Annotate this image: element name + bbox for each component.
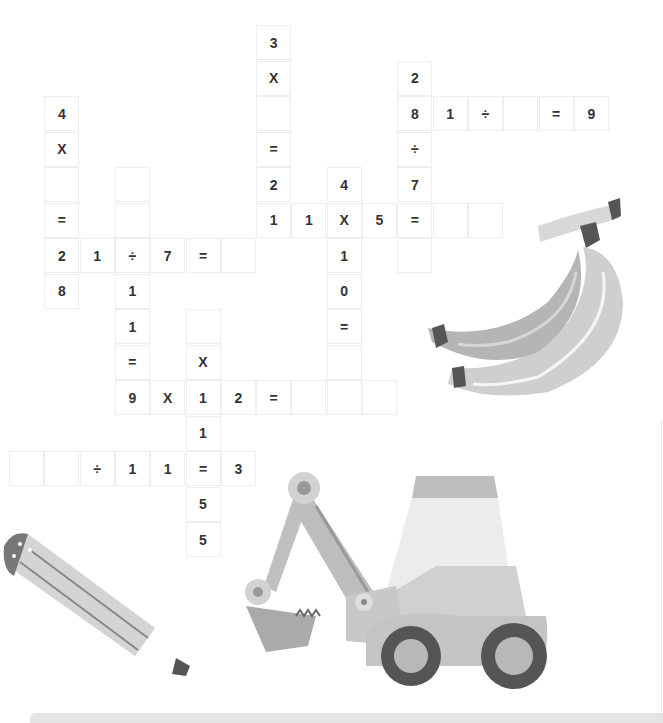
clue-cell: 5 xyxy=(362,203,397,238)
clue-cell: 1 xyxy=(115,309,150,344)
answer-cell[interactable] xyxy=(44,451,79,486)
answer-cell[interactable] xyxy=(221,238,256,273)
answer-cell[interactable] xyxy=(503,96,538,131)
clue-cell: 5 xyxy=(186,487,221,522)
banana-icon xyxy=(418,192,628,402)
clue-cell: 1 xyxy=(291,203,326,238)
clue-cell: ÷ xyxy=(80,451,115,486)
answer-cell[interactable] xyxy=(256,96,291,131)
clue-cell: 1 xyxy=(433,96,468,131)
clue-cell: = xyxy=(539,96,574,131)
clue-cell: 2 xyxy=(397,61,432,96)
clue-cell: = xyxy=(256,380,291,415)
clue-cell: 4 xyxy=(327,167,362,202)
clue-cell: 1 xyxy=(186,380,221,415)
excavator-icon xyxy=(236,466,556,706)
clue-cell: X xyxy=(186,345,221,380)
clue-cell: X xyxy=(256,61,291,96)
clue-cell: 8 xyxy=(397,96,432,131)
answer-cell[interactable] xyxy=(186,309,221,344)
clue-cell: = xyxy=(327,309,362,344)
answer-cell[interactable] xyxy=(115,203,150,238)
clue-cell: X xyxy=(327,203,362,238)
clue-cell: 4 xyxy=(44,96,79,131)
clue-cell: 1 xyxy=(256,203,291,238)
clue-cell: X xyxy=(150,380,185,415)
clue-cell: 1 xyxy=(327,238,362,273)
bottom-bar xyxy=(30,713,663,723)
clue-cell: 2 xyxy=(256,167,291,202)
clue-cell: = xyxy=(186,238,221,273)
clue-cell: 1 xyxy=(150,451,185,486)
clue-cell: 9 xyxy=(115,380,150,415)
clue-cell: = xyxy=(186,451,221,486)
clue-cell: 2 xyxy=(44,238,79,273)
clue-cell: 0 xyxy=(327,274,362,309)
clue-cell: = xyxy=(256,132,291,167)
clue-cell: = xyxy=(115,345,150,380)
answer-cell[interactable] xyxy=(291,380,326,415)
clue-cell: ÷ xyxy=(115,238,150,273)
clue-cell: = xyxy=(44,203,79,238)
clue-cell: 3 xyxy=(256,25,291,60)
clue-cell: 1 xyxy=(186,416,221,451)
pencil-icon xyxy=(0,526,200,686)
clue-cell: ÷ xyxy=(397,132,432,167)
answer-cell[interactable] xyxy=(9,451,44,486)
clue-cell: 9 xyxy=(574,96,609,131)
clue-cell: X xyxy=(44,132,79,167)
clue-cell: 1 xyxy=(80,238,115,273)
answer-cell[interactable] xyxy=(327,380,362,415)
answer-cell[interactable] xyxy=(362,380,397,415)
answer-cell[interactable] xyxy=(115,167,150,202)
clue-cell: 1 xyxy=(115,274,150,309)
clue-cell: ÷ xyxy=(468,96,503,131)
answer-cell[interactable] xyxy=(327,345,362,380)
clue-cell: 2 xyxy=(221,380,256,415)
answer-cell[interactable] xyxy=(44,167,79,202)
clue-cell: 8 xyxy=(44,274,79,309)
clue-cell: 7 xyxy=(150,238,185,273)
clue-cell: 1 xyxy=(115,451,150,486)
